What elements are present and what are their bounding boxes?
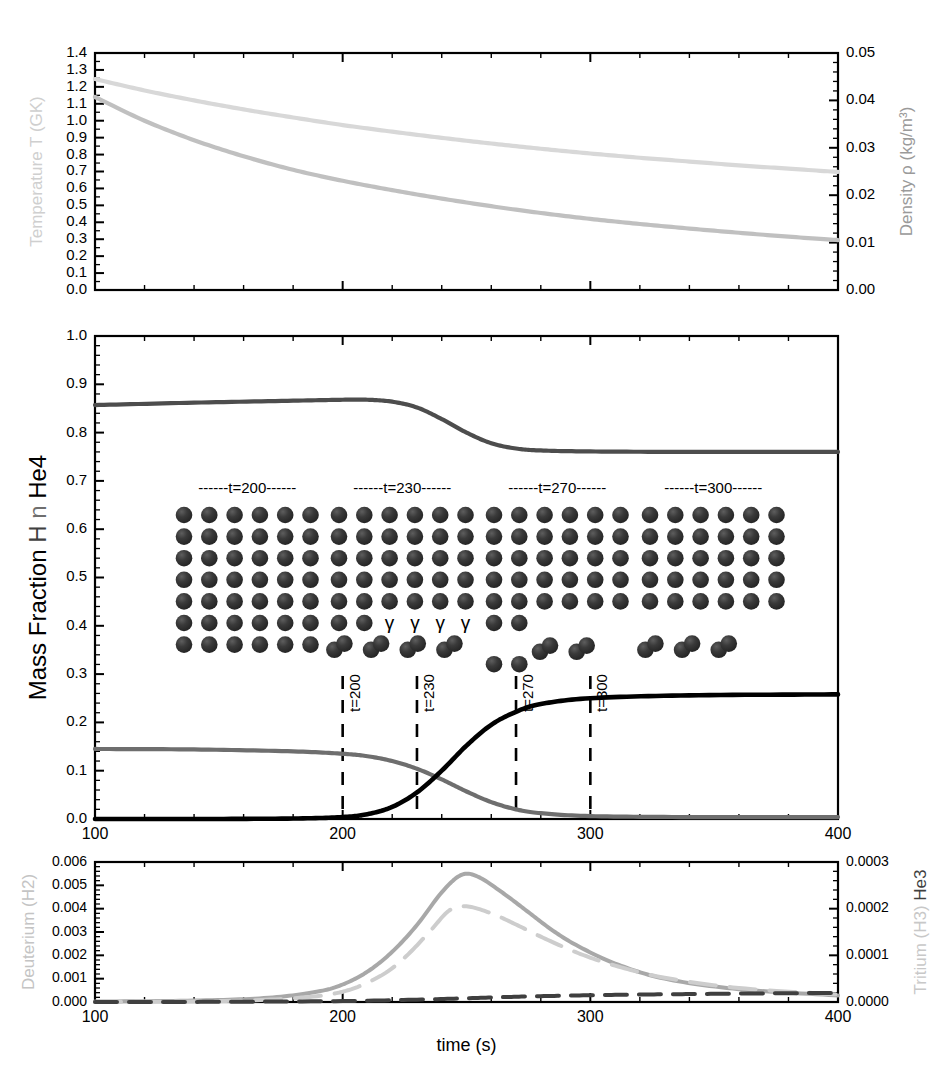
nucleon-sphere — [356, 572, 373, 589]
temperature-axis-tick-label: 1.0 — [66, 111, 87, 128]
fused-nucleon — [684, 635, 701, 652]
inset-block-header: ------t=200------ — [198, 479, 296, 496]
nucleon-sphere — [511, 572, 528, 589]
nucleon-sphere — [432, 528, 449, 545]
nucleon-sphere — [511, 528, 528, 545]
fused-nucleon — [720, 635, 737, 652]
nucleon-sphere — [381, 550, 398, 567]
nucleon-sphere — [277, 593, 294, 610]
massfraction-axis-tick-label: 0.6 — [66, 519, 87, 536]
massfraction-axis-tick-label: 0.4 — [66, 616, 87, 633]
deuterium-axis-tick-label: 0.005 — [52, 876, 87, 892]
nucleon-sphere — [277, 550, 294, 567]
temperature-axis-tick-label: 0.9 — [66, 128, 87, 145]
deuterium-axis-tick-label: 0.006 — [52, 853, 87, 869]
nucleon-sphere — [486, 507, 503, 524]
axis-label-part: He3 — [911, 869, 930, 905]
inset-block-header: ------t=300------ — [664, 479, 762, 496]
nucleon-sphere — [642, 593, 659, 610]
nucleon-sphere — [331, 507, 348, 524]
nucleon-sphere — [381, 593, 398, 610]
nucleon-sphere — [743, 572, 760, 589]
nucleon-sphere — [562, 593, 579, 610]
nucleon-sphere — [768, 528, 785, 545]
nucleon-sphere — [486, 550, 503, 567]
massfraction-axis-tick-label: 0.5 — [66, 567, 87, 584]
density-axis-tick-label: 0.01 — [846, 233, 875, 250]
tritium-he3-axis-label: Tritium (H3) He3 — [911, 869, 930, 994]
nucleon-sphere — [226, 572, 243, 589]
nucleon-sphere — [331, 615, 348, 632]
nucleon-sphere — [457, 507, 474, 524]
nucleon-sphere — [486, 572, 503, 589]
mid-x-tick-label: 300 — [577, 825, 604, 842]
massfraction-axis-tick-label: 0.0 — [66, 809, 87, 826]
nucleon-sphere — [562, 550, 579, 567]
temperature-axis-tick-label: 0.2 — [66, 246, 87, 263]
nucleon-sphere — [536, 528, 553, 545]
nucleon-sphere — [692, 550, 709, 567]
bot-x-tick-label: 100 — [82, 1008, 109, 1025]
nucleon-sphere — [226, 507, 243, 524]
nucleon-sphere — [226, 528, 243, 545]
bot-x-tick-label: 300 — [577, 1008, 604, 1025]
nucleon-sphere — [511, 507, 528, 524]
nucleon-sphere — [457, 572, 474, 589]
nucleon-sphere — [457, 550, 474, 567]
mid-x-tick-label: 400 — [825, 825, 852, 842]
temperature-axis-label: Temperature T (GK) — [27, 96, 46, 247]
density-axis-tick-label: 0.04 — [846, 90, 875, 107]
nucleon-sphere — [331, 593, 348, 610]
x-axis-label: time (s) — [437, 1035, 497, 1055]
nucleon-sphere — [743, 507, 760, 524]
deuterium-axis-label: Deuterium (H2) — [19, 874, 38, 990]
temperature-axis-tick-label: 1.4 — [66, 43, 87, 60]
nucleon-sphere — [743, 528, 760, 545]
massfraction-axis-tick-label: 0.7 — [66, 471, 87, 488]
nucleon-sphere — [201, 550, 218, 567]
bot-x-tick-label: 400 — [825, 1008, 852, 1025]
gamma-symbol: γ — [385, 612, 395, 633]
tritium-axis-tick-label: 0.0000 — [846, 993, 889, 1009]
figure-background — [0, 0, 945, 1087]
nucleon-sphere — [718, 572, 735, 589]
massfraction-axis-tick-label: 0.2 — [66, 712, 87, 729]
nucleon-sphere — [642, 507, 659, 524]
nucleon-sphere — [356, 528, 373, 545]
nucleon-sphere — [667, 528, 684, 545]
nucleon-sphere — [356, 550, 373, 567]
nucleon-sphere — [486, 593, 503, 610]
gamma-symbol: γ — [410, 612, 420, 633]
tritium-axis-tick-label: 0.0001 — [846, 946, 889, 962]
temperature-axis-tick-label: 0.1 — [66, 263, 87, 280]
nucleon-sphere — [407, 550, 424, 567]
massfraction-axis-tick-label: 0.8 — [66, 423, 87, 440]
nucleon-sphere — [432, 593, 449, 610]
nucleon-sphere — [587, 572, 604, 589]
temperature-axis-tick-label: 1.3 — [66, 60, 87, 77]
nucleon-sphere — [201, 615, 218, 632]
multi-panel-chart: 0.00.10.20.30.40.50.60.70.80.91.01.11.21… — [0, 0, 945, 1087]
nucleon-sphere — [486, 656, 503, 673]
deuterium-axis-tick-label: 0.000 — [52, 993, 87, 1009]
nucleon-sphere — [642, 572, 659, 589]
nucleon-sphere — [642, 528, 659, 545]
nucleon-sphere — [226, 636, 243, 653]
nucleon-sphere — [562, 528, 579, 545]
fused-nucleon — [409, 635, 426, 652]
nucleon-sphere — [692, 507, 709, 524]
nucleon-sphere — [356, 615, 373, 632]
nucleon-sphere — [226, 615, 243, 632]
deuterium-axis-tick-label: 0.003 — [52, 923, 87, 939]
nucleon-sphere — [743, 593, 760, 610]
nucleon-sphere — [277, 528, 294, 545]
nucleon-sphere — [768, 593, 785, 610]
nucleon-sphere — [381, 528, 398, 545]
nucleon-sphere — [486, 615, 503, 632]
nucleon-sphere — [718, 593, 735, 610]
nucleon-sphere — [356, 507, 373, 524]
massfraction-axis-tick-label: 0.9 — [66, 374, 87, 391]
nucleon-sphere — [277, 507, 294, 524]
nucleon-sphere — [667, 572, 684, 589]
temperature-axis-tick-label: 0.0 — [66, 280, 87, 297]
